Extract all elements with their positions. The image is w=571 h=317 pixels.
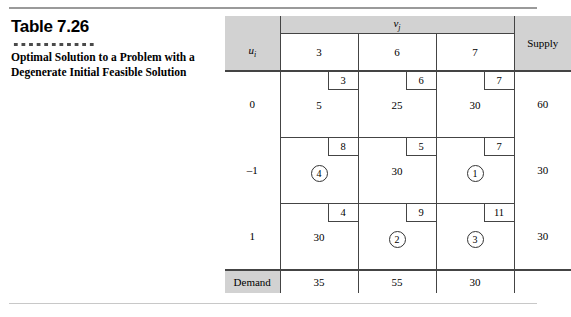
page-rule-top [9,7,537,9]
cost-r2-c1: 8 [328,138,358,156]
circled-value: 3 [467,231,484,248]
table-row: 0 3 5 6 25 7 30 60 [225,71,571,138]
demand-blank-cell [514,270,571,293]
cell-r2-c3: 7 1 [436,137,514,203]
alloc-r2-c1: 4 [281,165,358,182]
cost-r3-c3: 11 [484,204,514,222]
cost-r2-c3: 7 [484,138,514,156]
v-value-col-2: 6 [358,34,436,71]
transportation-tableau: vj Supply ui 3 6 7 0 3 5 [225,16,527,293]
supply-header: Supply [514,16,571,71]
dotted-divider [12,39,96,46]
cell-r3-c3: 11 3 [436,203,514,270]
figure-caption-block: Table 7.26 Optimal Solution to a Problem… [11,17,211,79]
table-row: 1 4 30 9 2 11 3 30 [225,203,571,270]
cost-r1-c2: 6 [406,72,436,90]
cost-r1-c1: 3 [328,72,358,90]
demand-value-col-3: 30 [436,270,514,293]
table-number-label: Table 7.26 [11,17,211,36]
alloc-r3-c3: 3 [437,231,514,248]
tableau-grid: vj Supply ui 3 6 7 0 3 5 [225,16,571,293]
cost-r3-c1: 4 [328,204,358,222]
cell-r2-c2: 5 30 [358,137,436,203]
alloc-r1-c1: 5 [281,99,358,111]
v-value-col-3: 7 [436,34,514,71]
supply-value-row-3: 30 [514,203,571,270]
u-value-row-1: 0 [225,71,280,138]
table-row: –1 8 4 5 30 7 1 30 [225,137,571,203]
alloc-r2-c2: 30 [359,165,436,177]
cell-r1-c1: 3 5 [280,71,358,138]
cell-r3-c1: 4 30 [280,203,358,270]
cell-r1-c2: 6 25 [358,71,436,138]
demand-row: Demand 35 55 30 [225,270,571,293]
vj-band-header: vj [280,16,514,34]
demand-header: Demand [225,270,280,293]
alloc-r3-c2: 2 [359,231,436,248]
circled-value: 4 [311,165,328,182]
table-caption-text: Optimal Solution to a Problem with a Deg… [11,50,211,79]
supply-value-row-1: 60 [514,71,571,138]
alloc-r1-c2: 25 [359,99,436,111]
demand-value-col-2: 55 [358,270,436,293]
demand-value-col-1: 35 [280,270,358,293]
header-row-vj: vj Supply [225,16,571,34]
ui-header: ui [225,34,280,71]
cost-r2-c2: 5 [406,138,436,156]
alloc-r2-c3: 1 [437,165,514,182]
v-value-col-1: 3 [280,34,358,71]
circled-value: 1 [467,165,484,182]
u-value-row-2: –1 [225,137,280,203]
header-corner-blank [225,16,280,34]
supply-value-row-2: 30 [514,137,571,203]
circled-value: 2 [389,231,406,248]
alloc-r1-c3: 30 [437,99,514,111]
cost-r3-c2: 9 [406,204,436,222]
u-value-row-3: 1 [225,203,280,270]
page-rule-bottom [9,303,537,304]
cost-r1-c3: 7 [484,72,514,90]
vj-label: vj [393,17,400,29]
cell-r1-c3: 7 30 [436,71,514,138]
cell-r3-c2: 9 2 [358,203,436,270]
cell-r2-c1: 8 4 [280,137,358,203]
alloc-r3-c1: 30 [281,231,358,243]
